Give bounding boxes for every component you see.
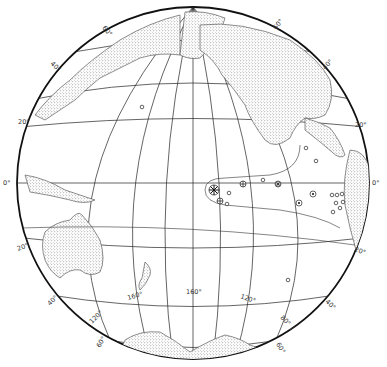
dot-circle-symbol	[296, 200, 302, 206]
svg-text:0°: 0°	[372, 179, 379, 187]
small-circle-symbol	[314, 159, 318, 163]
small-circle-symbol	[341, 200, 345, 204]
small-circle-symbol	[286, 278, 290, 282]
svg-text:60°: 60°	[274, 341, 287, 355]
small-circle-symbol	[225, 202, 229, 206]
small-circle-symbol	[335, 193, 339, 197]
small-circle-symbol	[338, 206, 342, 210]
small-circle-symbol	[261, 178, 265, 182]
small-circle-symbol	[334, 201, 338, 205]
small-circle-symbol	[140, 105, 144, 109]
svg-text:20°: 20°	[18, 118, 30, 126]
small-circle-symbol	[331, 210, 335, 214]
dot-circle-symbol	[310, 191, 316, 197]
cross-circle-symbol	[217, 198, 223, 204]
svg-text:60°: 60°	[95, 335, 108, 349]
svg-text:20°: 20°	[353, 245, 367, 256]
small-circle-symbol	[304, 146, 308, 150]
small-circle-symbol	[340, 192, 344, 196]
asterisk-circle-symbol	[275, 181, 281, 187]
large-asterisk-symbol	[209, 185, 219, 195]
svg-text:0°: 0°	[3, 179, 10, 187]
cross-circle-symbol	[240, 181, 246, 187]
svg-text:160°: 160°	[186, 288, 202, 296]
caption-strip	[0, 358, 387, 367]
globe-map: 60° 40° 20° 0° 20° 40° 60° 60° 40° 20° 0…	[0, 0, 387, 367]
small-circle-symbol	[330, 193, 334, 197]
small-circle-symbol	[227, 191, 231, 195]
svg-text:20°: 20°	[355, 121, 367, 129]
